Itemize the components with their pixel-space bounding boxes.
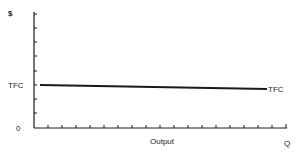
chart-canvas bbox=[0, 0, 298, 160]
tfc-line-label: TFC bbox=[268, 85, 284, 94]
x-end-label: Q bbox=[284, 139, 290, 148]
tfc-y-tick-label: TFC bbox=[8, 81, 24, 90]
x-axis-label: Output bbox=[150, 137, 174, 146]
y-axis-label: $ bbox=[8, 9, 12, 18]
origin-label: 0 bbox=[16, 124, 20, 133]
tfc-line bbox=[40, 85, 267, 89]
